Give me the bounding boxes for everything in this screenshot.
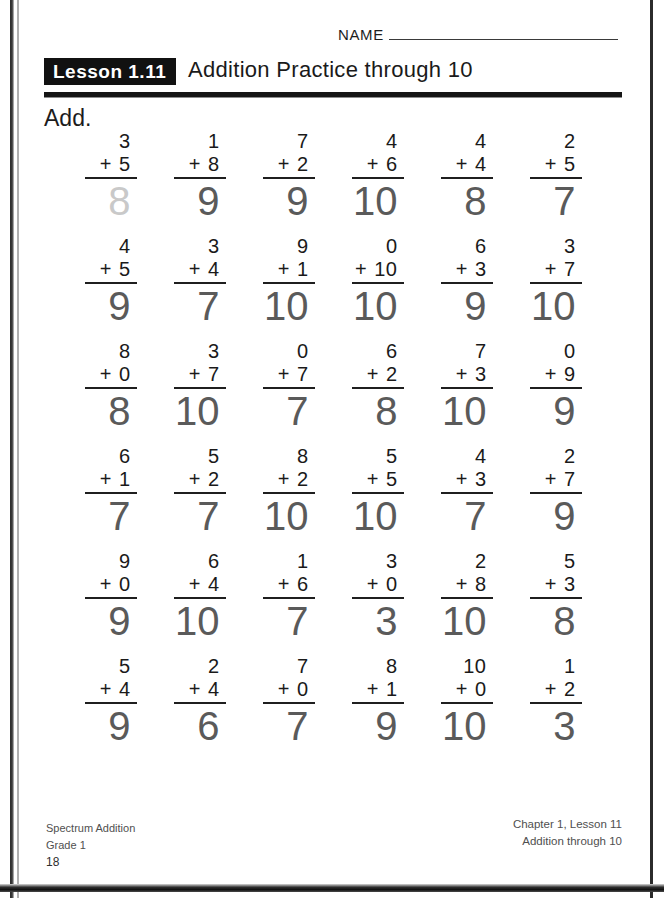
answer-value[interactable]: 7: [166, 284, 226, 328]
problem-stack: 4+59: [77, 235, 137, 328]
answer-value[interactable]: 9: [77, 599, 137, 643]
answer-value[interactable]: 10: [166, 599, 226, 643]
plus-operator-icon: +: [278, 152, 290, 176]
name-write-line[interactable]: [389, 39, 618, 40]
footer-right: Chapter 1, Lesson 11 Addition through 10: [513, 816, 622, 850]
top-addend: 10: [433, 655, 493, 677]
bottom-addend-line: +4: [166, 572, 226, 596]
bottom-addend-line: +7: [255, 362, 315, 386]
answer-value[interactable]: 10: [255, 284, 315, 328]
addition-problem: 6+28: [329, 340, 418, 445]
plus-operator-icon: +: [367, 362, 379, 386]
scan-edge-bottom: [0, 884, 664, 892]
answer-value[interactable]: 8: [344, 389, 404, 433]
answer-value[interactable]: 10: [433, 389, 493, 433]
top-addend: 7: [255, 655, 315, 677]
answer-value[interactable]: 10: [344, 494, 404, 538]
bottom-addend: 7: [208, 362, 220, 386]
problem-row: 3+581+897+294+6104+482+57: [62, 130, 622, 235]
bottom-addend: 0: [475, 677, 487, 701]
addition-problem: 0+99: [507, 340, 596, 445]
bottom-addend: 1: [119, 467, 131, 491]
bottom-addend: 7: [297, 362, 309, 386]
addition-problem: 3+58: [62, 130, 151, 235]
bottom-addend-line: +5: [77, 257, 137, 281]
worksheet-page: NAME Lesson 1.11 Addition Practice throu…: [0, 0, 664, 898]
bottom-addend: 4: [208, 257, 220, 281]
plus-operator-icon: +: [189, 677, 201, 701]
top-addend: 2: [166, 655, 226, 677]
answer-value[interactable]: 9: [77, 704, 137, 748]
bottom-addend: 2: [297, 467, 309, 491]
answer-value[interactable]: 9: [344, 704, 404, 748]
scan-edge-left: [10, 0, 14, 898]
answer-value[interactable]: 3: [522, 704, 582, 748]
bottom-addend: 7: [564, 467, 576, 491]
instruction-text: Add.: [44, 105, 91, 132]
bottom-addend-line: +0: [344, 572, 404, 596]
top-addend: 3: [344, 550, 404, 572]
bottom-addend-line: +3: [433, 257, 493, 281]
answer-value[interactable]: 8: [522, 599, 582, 643]
problem-stack: 6+39: [433, 235, 493, 328]
answer-value[interactable]: 9: [255, 179, 315, 223]
name-field[interactable]: NAME: [338, 26, 618, 43]
addition-problem: 4+59: [62, 235, 151, 340]
top-addend: 6: [344, 340, 404, 362]
problem-stack: 9+09: [77, 550, 137, 643]
problem-stack: 3+710: [522, 235, 582, 328]
plus-operator-icon: +: [278, 257, 290, 281]
answer-value[interactable]: 7: [255, 599, 315, 643]
bottom-addend: 2: [564, 677, 576, 701]
answer-value[interactable]: 6: [166, 704, 226, 748]
problem-stack: 4+48: [433, 130, 493, 223]
answer-value[interactable]: 10: [522, 284, 582, 328]
answer-value[interactable]: 3: [344, 599, 404, 643]
problem-stack: 6+410: [166, 550, 226, 643]
answer-value[interactable]: 9: [166, 179, 226, 223]
problem-stack: 2+46: [166, 655, 226, 748]
answer-value[interactable]: 10: [433, 704, 493, 748]
bottom-addend-line: +0: [255, 677, 315, 701]
problem-stack: 7+310: [433, 340, 493, 433]
problem-stack: 5+49: [77, 655, 137, 748]
answer-value[interactable]: 9: [522, 494, 582, 538]
answer-value[interactable]: 7: [433, 494, 493, 538]
bottom-addend-line: +7: [166, 362, 226, 386]
bottom-addend-line: +2: [166, 467, 226, 491]
answer-value[interactable]: 9: [522, 389, 582, 433]
answer-value[interactable]: 7: [522, 179, 582, 223]
top-addend: 5: [344, 445, 404, 467]
top-addend: 8: [77, 340, 137, 362]
answer-value[interactable]: 10: [344, 284, 404, 328]
bottom-addend: 0: [119, 362, 131, 386]
answer-value[interactable]: 8: [77, 389, 137, 433]
bottom-addend-line: +7: [522, 257, 582, 281]
answer-value[interactable]: 8: [433, 179, 493, 223]
answer-value[interactable]: 10: [433, 599, 493, 643]
addition-problem: 8+210: [240, 445, 329, 550]
top-addend: 7: [433, 340, 493, 362]
bottom-addend: 3: [564, 572, 576, 596]
answer-traced-example[interactable]: 8: [77, 179, 137, 223]
answer-value[interactable]: 7: [166, 494, 226, 538]
answer-value[interactable]: 10: [166, 389, 226, 433]
bottom-addend-line: +0: [433, 677, 493, 701]
answer-value[interactable]: 10: [255, 494, 315, 538]
answer-value[interactable]: 9: [77, 284, 137, 328]
bottom-addend-line: +6: [255, 572, 315, 596]
problem-stack: 6+28: [344, 340, 404, 433]
problem-stack: 0+77: [255, 340, 315, 433]
bottom-addend: 5: [119, 152, 131, 176]
answer-value[interactable]: 10: [344, 179, 404, 223]
bottom-addend: 1: [297, 257, 309, 281]
top-addend: 4: [433, 130, 493, 152]
answer-value[interactable]: 7: [77, 494, 137, 538]
answer-value[interactable]: 7: [255, 704, 315, 748]
answer-value[interactable]: 9: [433, 284, 493, 328]
addition-problem: 4+48: [418, 130, 507, 235]
bottom-addend: 3: [475, 467, 487, 491]
plus-operator-icon: +: [545, 152, 557, 176]
answer-value[interactable]: 7: [255, 389, 315, 433]
plus-operator-icon: +: [367, 572, 379, 596]
